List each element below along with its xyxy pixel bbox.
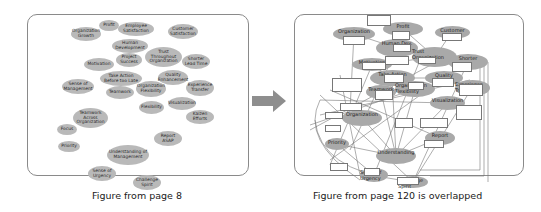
- bubble-organization: Organization: [342, 110, 382, 126]
- note-box: [367, 15, 391, 26]
- note-box: [325, 112, 343, 119]
- caption-figure-page-120: Figure from page 120 is overlapped: [313, 190, 482, 201]
- note-box: [393, 44, 411, 52]
- note-box: [375, 90, 393, 100]
- note-box: [343, 36, 365, 45]
- note-box: [424, 140, 444, 148]
- note-box: [362, 62, 386, 70]
- bubble-priority: Priority: [325, 138, 349, 150]
- note-box: [432, 78, 454, 87]
- note-box: [332, 78, 362, 92]
- note-box: [392, 31, 410, 40]
- note-box: [340, 103, 362, 111]
- note-box: [408, 82, 424, 90]
- bubble-understanding: Understanding: [376, 148, 416, 164]
- note-box: [395, 118, 413, 128]
- note-box: [418, 57, 436, 64]
- note-box: [385, 56, 409, 65]
- note-box: [442, 33, 462, 41]
- note-box: [420, 118, 448, 128]
- note-box: [325, 125, 341, 132]
- note-box: [364, 168, 380, 176]
- note-box: [330, 163, 348, 171]
- note-box: [384, 74, 404, 83]
- note-box: [397, 177, 419, 185]
- note-box: [459, 84, 483, 96]
- note-box: [452, 62, 472, 72]
- note-box: [456, 105, 482, 120]
